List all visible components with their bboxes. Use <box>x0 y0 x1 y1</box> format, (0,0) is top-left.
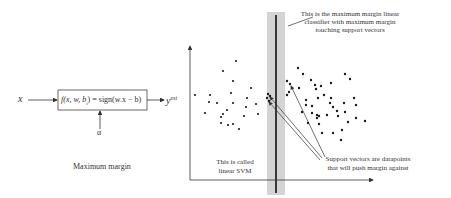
data-point <box>250 87 252 89</box>
data-point <box>316 117 318 119</box>
data-point <box>222 113 224 115</box>
data-point <box>302 73 304 75</box>
data-point <box>208 101 210 103</box>
data-point <box>243 115 245 117</box>
data-point <box>330 97 332 99</box>
data-point <box>301 111 303 113</box>
data-point <box>238 128 240 130</box>
function-args: (x, w, b <box>63 95 86 104</box>
data-point <box>232 123 234 125</box>
data-point <box>355 104 357 106</box>
data-point <box>298 87 300 89</box>
data-point <box>355 117 357 119</box>
data-point <box>343 102 345 104</box>
data-point <box>341 129 343 131</box>
svm-annotation-line-2: linear SVM <box>205 167 265 176</box>
data-point <box>194 94 196 96</box>
classifier-annotation-line-2: classifier with maximum margin <box>300 18 400 26</box>
data-point <box>220 116 222 118</box>
data-point <box>311 105 313 107</box>
data-point <box>232 80 234 82</box>
data-point <box>268 100 270 102</box>
data-point <box>364 120 366 122</box>
data-point <box>245 106 247 108</box>
support-vectors-annotation-line-2: that will push margin against <box>318 164 418 173</box>
data-point <box>337 115 339 117</box>
data-point <box>353 97 355 99</box>
function-label: f(x, w, bi) = sign(w.x − b) <box>61 95 141 109</box>
data-point <box>204 112 206 114</box>
block-caption: Maximum margin <box>73 162 131 172</box>
class-a-points <box>194 60 259 130</box>
data-point <box>246 97 248 99</box>
data-point <box>310 79 312 81</box>
data-point <box>297 67 299 69</box>
data-point <box>311 112 313 114</box>
classifier-annotation-line-1: This is the maximum margin linear <box>300 10 400 18</box>
output-label: yest <box>166 93 177 106</box>
data-point <box>314 84 316 86</box>
data-point <box>340 139 342 141</box>
data-point <box>288 91 290 93</box>
data-point <box>320 85 322 87</box>
data-point <box>230 92 232 94</box>
data-point <box>349 78 351 80</box>
support-vectors-annotation-line-1: Support vectors are datapoints <box>318 155 418 164</box>
data-point <box>267 93 269 95</box>
parameter-label: α <box>97 128 101 138</box>
data-point <box>222 70 224 72</box>
function-rest: ) = sign(w.x − b) <box>88 95 142 104</box>
data-point <box>235 60 237 62</box>
input-label: x <box>18 94 22 104</box>
data-point <box>344 111 346 113</box>
data-point <box>257 113 259 115</box>
data-point <box>323 94 325 96</box>
data-point <box>326 114 328 116</box>
data-point <box>269 95 271 97</box>
data-point <box>307 122 309 124</box>
data-point <box>220 122 222 124</box>
data-point <box>266 97 268 99</box>
data-point <box>317 97 319 99</box>
data-point <box>315 88 317 90</box>
data-point <box>227 124 229 126</box>
output-superscript: est <box>170 95 177 101</box>
data-point <box>209 94 211 96</box>
data-point <box>332 132 334 134</box>
data-point <box>321 132 323 134</box>
data-point <box>226 109 228 111</box>
classifier-annotation-line-3: touching support vectors <box>300 26 400 34</box>
data-point <box>305 104 307 106</box>
data-point <box>286 80 288 82</box>
data-point <box>216 102 218 104</box>
data-point <box>289 83 291 85</box>
data-point <box>318 115 320 117</box>
data-point <box>286 94 288 96</box>
data-point <box>318 123 320 125</box>
svm-annotation: This is called linear SVM <box>205 158 265 176</box>
svm-annotation-line-1: This is called <box>205 158 265 167</box>
support-vectors-annotation: Support vectors are datapoints that will… <box>318 155 418 173</box>
classifier-annotation: This is the maximum margin linear classi… <box>300 10 400 34</box>
data-point <box>232 102 234 104</box>
data-point <box>347 121 349 123</box>
data-point <box>305 99 307 101</box>
data-point <box>336 110 338 112</box>
data-point <box>332 106 334 108</box>
data-point <box>255 103 257 105</box>
data-point <box>329 102 331 104</box>
data-point <box>330 82 332 84</box>
data-point <box>344 73 346 75</box>
